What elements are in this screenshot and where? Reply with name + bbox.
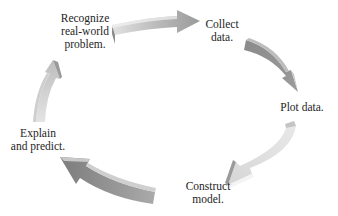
cycle-diagram: Recognize real-world problem. Collect da… — [0, 0, 338, 216]
step-collect-data: Collect data. — [200, 18, 244, 44]
step-label-line: and predict. — [6, 140, 70, 153]
arrow-explain-to-recognize — [33, 60, 62, 122]
step-label-line: real-world — [55, 25, 115, 38]
step-construct-model: Construct model. — [180, 180, 236, 206]
arrow-construct-to-explain — [60, 157, 156, 204]
step-label-line: problem. — [55, 38, 115, 51]
arrow-recognize-to-collect — [112, 10, 200, 44]
step-label-line: Recognize — [55, 12, 115, 25]
step-label-line: data. — [200, 31, 244, 44]
arrow-plot-to-construct — [225, 121, 296, 188]
step-label-line: model. — [180, 193, 236, 206]
step-label-line: Collect — [200, 18, 244, 31]
step-label-line: Plot data. — [274, 101, 330, 114]
step-plot-data: Plot data. — [274, 101, 330, 114]
step-label-line: Explain — [6, 127, 70, 140]
step-recognize-problem: Recognize real-world problem. — [55, 12, 115, 51]
step-label-line: Construct — [180, 180, 236, 193]
step-explain-predict: Explain and predict. — [6, 127, 70, 153]
arrow-collect-to-plot — [244, 38, 298, 92]
